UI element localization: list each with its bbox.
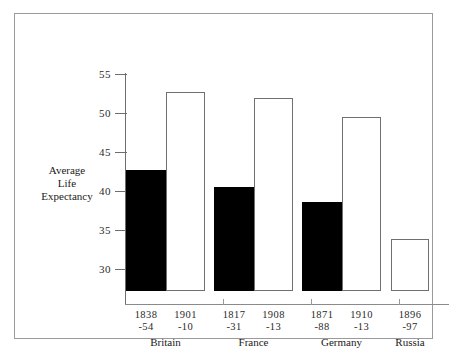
group-label-germany: Germany (302, 336, 381, 349)
x-label-france-1908-13: 1908 -13 (248, 309, 299, 333)
x-label-britain-1901-10: 1901 -10 (160, 309, 211, 333)
bar-france-1908-13[interactable] (254, 98, 293, 291)
x-label-year-top: 1901 (174, 309, 197, 320)
x-label-year-top: 1910 (350, 309, 373, 320)
x-label-year-top: 1896 (399, 309, 422, 320)
y-tick-label: 35 (99, 224, 111, 236)
figure-frame: 55 50 45 40 35 30 Average Life Expectanc… (14, 13, 433, 339)
x-label-year-bottom: -10 (160, 321, 211, 333)
y-tick-mark (115, 113, 127, 114)
x-label-year-bottom: -13 (336, 321, 387, 333)
y-axis-title-line-1: Average (35, 164, 99, 177)
bar-britain-1901-10[interactable] (166, 92, 205, 291)
y-tick-label: 55 (99, 68, 111, 80)
bar-germany-1910-13[interactable] (342, 117, 381, 291)
y-tick-label: 30 (99, 263, 111, 275)
y-tick-30: 30 (85, 263, 127, 275)
x-label-germany-1910-13: 1910 -13 (336, 309, 387, 333)
bar-russia-1896-97[interactable] (391, 239, 429, 291)
group-separator (311, 299, 312, 305)
bar-france-1817-31[interactable] (214, 187, 254, 291)
x-label-year-top: 1817 (223, 309, 246, 320)
group-separator (399, 299, 400, 305)
y-axis-title-line-3: Expectancy (35, 190, 99, 203)
y-axis-title-line-2: Life (35, 177, 99, 190)
x-label-year-top: 1838 (135, 309, 158, 320)
y-tick-label: 40 (99, 185, 111, 197)
y-tick-mark (115, 152, 127, 153)
group-separator (223, 299, 224, 305)
x-label-year-bottom: -97 (385, 321, 435, 333)
group-label-britain: Britain (126, 336, 205, 349)
group-label-france: France (214, 336, 293, 349)
y-axis-title: Average Life Expectancy (35, 164, 99, 203)
bar-britain-1838-54[interactable] (126, 170, 166, 291)
x-label-year-bottom: -13 (248, 321, 299, 333)
y-tick-mark (115, 74, 127, 75)
y-tick-55: 55 (85, 68, 127, 80)
group-label-russia: Russia (391, 336, 429, 349)
x-label-year-top: 1908 (262, 309, 285, 320)
y-tick-45: 45 (85, 146, 127, 158)
y-tick-label: 50 (99, 107, 111, 119)
bar-germany-1871-88[interactable] (302, 202, 342, 291)
x-label-russia-1896-97: 1896 -97 (385, 309, 435, 333)
y-tick-label: 45 (99, 146, 111, 158)
y-tick-35: 35 (85, 224, 127, 236)
x-axis-baseline (125, 304, 449, 305)
y-tick-50: 50 (85, 107, 127, 119)
x-label-year-top: 1871 (311, 309, 334, 320)
